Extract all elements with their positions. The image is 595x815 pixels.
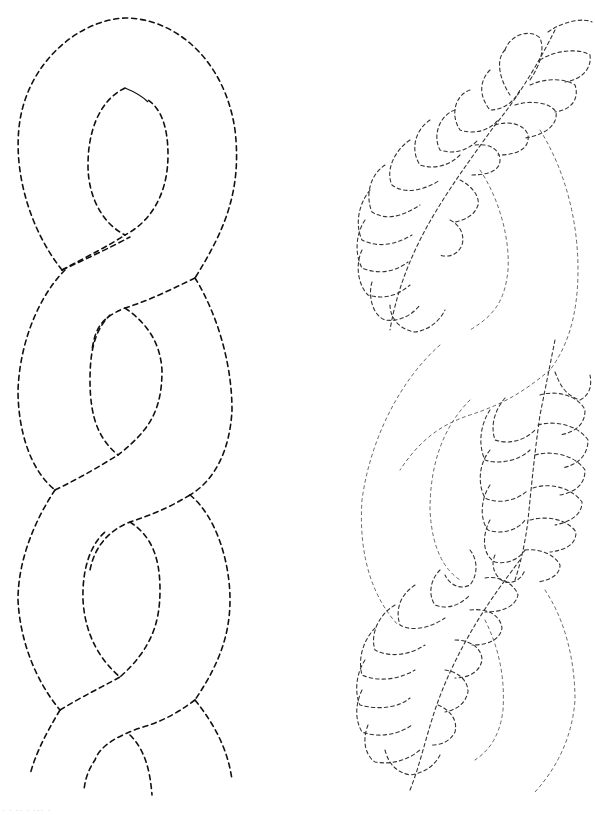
feather-cable-inner-left-2 xyxy=(430,400,470,580)
feather-plumes-3 xyxy=(357,550,518,775)
cable-band-4 xyxy=(84,700,195,790)
cable-loop-inner-1-tip xyxy=(125,88,148,102)
cable-loop-inner-3 xyxy=(83,522,160,677)
cable-loop-inner-4 xyxy=(130,735,152,795)
page-caption: · · ·· · ··· · xyxy=(2,806,51,815)
cable-braid-pattern xyxy=(18,18,237,795)
feathered-cable-pattern xyxy=(357,20,592,792)
feather-plumes-1 xyxy=(357,33,542,332)
cable-band-3b xyxy=(60,677,120,710)
feather-cable-inner-right-3 xyxy=(475,620,503,760)
feather-cable-outer-left-2 xyxy=(361,345,440,625)
feather-plumes-2 xyxy=(480,372,590,582)
stencil-canvas xyxy=(0,0,595,815)
cable-band-2b xyxy=(55,455,118,490)
cable-band-2 xyxy=(92,278,195,350)
cable-loop-outer-2 xyxy=(18,270,232,495)
feather-cable-outer-right-1 xyxy=(540,130,578,370)
feather-cable-crossing-1 xyxy=(400,370,550,470)
feather-plumes-1-right xyxy=(440,20,592,256)
feather-spine-2 xyxy=(515,340,555,580)
cable-loop-inner-1 xyxy=(88,88,168,235)
cable-loop-outer-4 xyxy=(30,700,232,780)
cable-crossing-1 xyxy=(62,237,130,270)
cable-strand-1 xyxy=(62,235,125,270)
feather-spine-3 xyxy=(410,560,520,790)
cable-loop-inner-2 xyxy=(90,308,162,455)
cable-loop-outer-3 xyxy=(18,490,230,710)
feather-cable-outer-right-3 xyxy=(535,590,575,792)
feather-spine-1 xyxy=(390,30,555,330)
